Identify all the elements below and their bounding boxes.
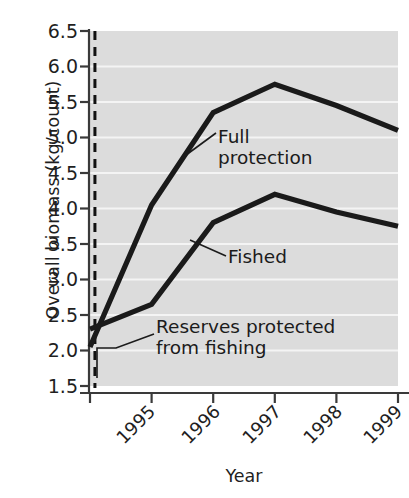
plot-area [0,0,409,498]
x-axis-ticks [90,393,398,403]
chart-figure: Overall biomass (kg/count) 6.5 6.0 5.5 5… [0,0,409,498]
annotation-fished: Fished [228,246,287,267]
annotation-reserves-protected: Reserves protected from fishing [156,316,335,358]
annotation-full-protection: Full protection [218,126,313,168]
x-axis-title: Year [90,466,398,486]
